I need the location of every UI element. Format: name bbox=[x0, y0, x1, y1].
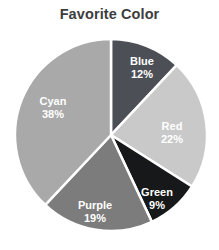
pie-chart-canvas bbox=[0, 0, 219, 250]
pie-chart-figure: Favorite Color Blue12%Red22%Green9%Purpl… bbox=[0, 0, 219, 250]
pie-slices-group bbox=[15, 39, 207, 231]
